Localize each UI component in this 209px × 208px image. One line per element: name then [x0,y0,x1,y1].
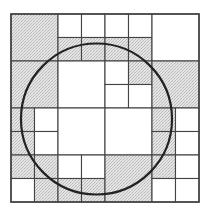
empty-cell [58,14,82,38]
empty-cell [105,61,129,85]
empty-cell [58,108,105,155]
empty-cell [176,108,200,132]
empty-cell [176,155,200,179]
empty-cell [129,14,153,38]
empty-cell [176,132,200,156]
empty-cell [152,14,199,61]
empty-cell [82,155,106,179]
shaded-cell [11,14,58,61]
empty-cell [82,14,106,38]
empty-cell [105,85,129,109]
empty-cell [129,85,153,109]
shaded-cell [11,108,35,132]
empty-cell [176,179,200,203]
shaded-cell [152,61,199,108]
shaded-cell [105,155,152,202]
empty-cell [35,108,59,132]
empty-cell [105,14,129,38]
empty-cell [58,155,82,179]
shaded-cell [82,38,106,62]
quadtree-diagram [0,0,209,208]
empty-cell [35,132,59,156]
shaded-cell [11,61,58,108]
empty-cell [11,179,35,203]
shaded-cell [82,179,106,203]
empty-cell [152,179,176,203]
empty-cell [105,108,152,155]
empty-cell [58,61,105,108]
